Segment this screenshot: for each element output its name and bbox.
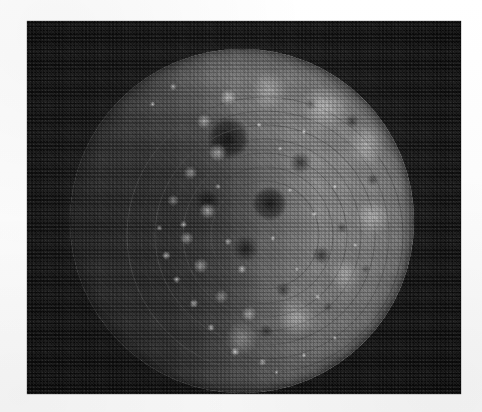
petri-dish <box>70 49 414 393</box>
photograph-frame <box>27 21 461 394</box>
dish-rim <box>70 49 414 393</box>
page-root <box>0 0 482 412</box>
